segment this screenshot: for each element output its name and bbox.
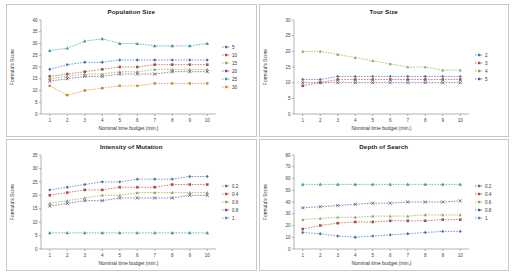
series-marker (371, 220, 374, 223)
series-marker (153, 185, 156, 188)
legend-marker (225, 62, 227, 64)
x-tick-label: 7 (153, 118, 156, 123)
y-tick-label: 0 (287, 246, 290, 251)
x-tick-label: 5 (118, 253, 121, 258)
y-tick-label: 20 (32, 65, 38, 70)
y-tick-label: 25 (32, 179, 38, 184)
y-tick-label: 0 (287, 112, 290, 117)
series-marker (48, 193, 51, 196)
legend-marker (225, 184, 227, 186)
series-marker (206, 63, 209, 66)
series-marker (388, 214, 391, 217)
series-marker (66, 185, 69, 188)
series-marker (118, 193, 121, 196)
series-marker (171, 177, 174, 180)
y-tick-label: 5 (287, 96, 290, 101)
series-marker (318, 50, 321, 53)
series-marker (135, 42, 139, 45)
series-marker (65, 231, 69, 234)
series-marker (153, 44, 157, 47)
x-tick-label: 10 (205, 253, 211, 258)
x-tick-label: 8 (171, 253, 174, 258)
legend-label: 3 (485, 61, 488, 66)
x-tick-label: 7 (153, 253, 156, 258)
series-marker (48, 68, 51, 71)
series-marker (101, 87, 104, 90)
x-tick-label: 5 (371, 253, 374, 258)
legend-label: 0.2 (485, 183, 492, 188)
x-axis-label: Nominal time budget (min.) (351, 260, 411, 266)
x-tick-label: 2 (318, 118, 321, 123)
y-tick-label: 25 (285, 33, 291, 38)
legend-label: 1 (485, 215, 488, 220)
panel-title: Intensity of Mutation (7, 143, 256, 150)
series-marker (171, 183, 174, 186)
panel-title: Tour Size (260, 8, 509, 15)
series-marker (318, 224, 321, 227)
series-line (50, 83, 208, 95)
series-marker (153, 82, 156, 85)
legend-label: 0.4 (485, 191, 492, 196)
x-tick-label: 3 (336, 253, 339, 258)
series-marker (206, 58, 209, 61)
y-tick-label: 35 (32, 152, 38, 157)
x-tick-label: 2 (318, 253, 321, 258)
y-tick-label: 70 (285, 164, 291, 169)
x-tick-label: 6 (388, 118, 391, 123)
panel-title: Population Size (7, 8, 256, 15)
series-marker (301, 85, 304, 88)
plot-area: 051015202530354012345678910Nominal time … (7, 16, 256, 136)
series-marker (188, 58, 191, 61)
series-line (50, 176, 208, 189)
y-tick-label: 30 (285, 211, 291, 216)
legend-marker (478, 184, 480, 186)
legend-label: 2 (485, 53, 488, 58)
legend-marker (478, 192, 480, 194)
x-tick-label: 2 (66, 118, 69, 123)
series-line (302, 51, 460, 70)
legend-marker (225, 70, 227, 72)
series-marker (441, 78, 444, 81)
legend-label: 4 (485, 69, 488, 74)
legend-label: 25 (232, 77, 238, 82)
series-marker (371, 59, 374, 62)
x-tick-label: 3 (83, 118, 86, 123)
series-marker (388, 78, 391, 81)
series-marker (153, 177, 156, 180)
series-marker (153, 58, 156, 61)
x-tick-label: 8 (171, 118, 174, 123)
x-tick-label: 6 (388, 253, 391, 258)
series-marker (388, 182, 392, 185)
series-marker (188, 63, 191, 66)
y-tick-label: 5 (35, 233, 38, 238)
x-axis-label: Nominal time budget (min.) (98, 260, 158, 266)
legend-marker (478, 200, 480, 202)
series-line (50, 65, 208, 77)
y-tick-label: 15 (32, 206, 38, 211)
x-tick-label: 4 (353, 253, 356, 258)
series-marker (66, 63, 69, 66)
series-marker (171, 63, 174, 66)
legend-label: 5 (232, 45, 235, 50)
legend-marker (478, 216, 480, 218)
x-tick-label: 4 (101, 118, 104, 123)
x-tick-label: 10 (457, 118, 463, 123)
y-tick-label: 15 (32, 76, 38, 81)
legend-label: 0.2 (232, 183, 239, 188)
x-tick-label: 4 (353, 118, 356, 123)
x-tick-label: 2 (66, 253, 69, 258)
series-line (50, 195, 208, 206)
series-marker (66, 199, 69, 202)
x-tick-label: 8 (423, 253, 426, 258)
x-tick-label: 9 (188, 253, 191, 258)
x-tick-label: 7 (406, 118, 409, 123)
y-tick-label: 20 (32, 192, 38, 197)
x-tick-label: 9 (188, 118, 191, 123)
y-tick-label: 20 (285, 49, 291, 54)
series-marker (458, 218, 461, 221)
series-marker (301, 230, 304, 233)
series-marker (388, 219, 391, 222)
series-marker (136, 84, 139, 87)
series-marker (336, 234, 339, 237)
series-marker (336, 75, 339, 78)
